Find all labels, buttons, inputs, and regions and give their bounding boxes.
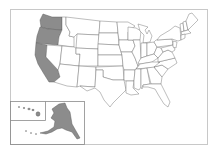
state-mississippi — [134, 69, 141, 90]
state-indiana — [141, 43, 147, 58]
us-map — [0, 0, 220, 150]
state-wyoming — [76, 34, 99, 49]
state-new-mexico — [77, 66, 96, 87]
state-new-jersey — [173, 41, 177, 48]
state-north-dakota — [99, 21, 118, 33]
state-iowa — [119, 40, 135, 52]
state-south-dakota — [98, 33, 119, 45]
state-oregon — [36, 27, 62, 45]
us-map-svg — [0, 0, 220, 150]
state-nebraska — [98, 44, 122, 55]
state-arkansas — [124, 70, 135, 81]
state-kansas — [98, 55, 123, 66]
